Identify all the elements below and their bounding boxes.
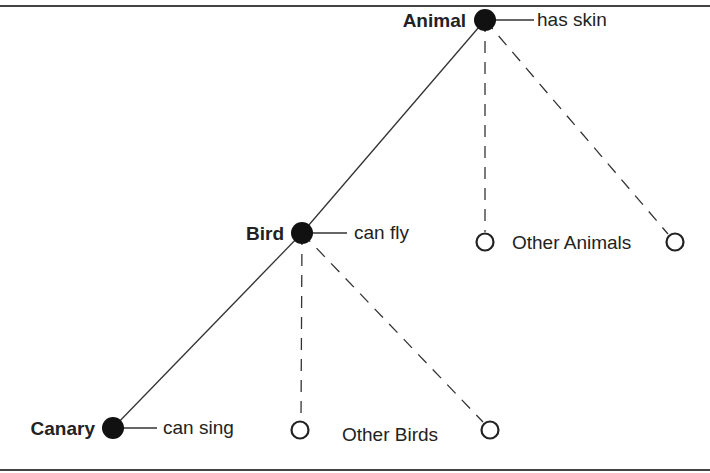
- semantic-network-diagram: Animal Bird Canary has skin can fly can …: [0, 0, 710, 473]
- node-bird: [291, 222, 313, 244]
- edge-bird-other-birds-1: [301, 233, 302, 420]
- edge-bird-other-birds-2: [302, 233, 483, 422]
- node-animal: [474, 9, 496, 31]
- node-other-birds-1: [292, 422, 309, 439]
- node-canary: [102, 417, 124, 439]
- property-canary: can sing: [163, 417, 234, 438]
- property-animal: has skin: [537, 9, 607, 30]
- label-bird: Bird: [246, 223, 284, 244]
- edge-animal-other-animals-2: [485, 20, 668, 234]
- label-animal: Animal: [403, 10, 466, 31]
- edge-bird-canary: [113, 233, 302, 428]
- label-canary: Canary: [31, 418, 96, 439]
- label-other-animals: Other Animals: [512, 232, 631, 253]
- node-other-animals-1: [477, 234, 494, 251]
- label-other-birds: Other Birds: [342, 424, 438, 445]
- edge-animal-bird: [302, 20, 485, 233]
- property-bird: can fly: [354, 222, 409, 243]
- node-other-animals-2: [667, 234, 684, 251]
- node-other-birds-2: [482, 422, 499, 439]
